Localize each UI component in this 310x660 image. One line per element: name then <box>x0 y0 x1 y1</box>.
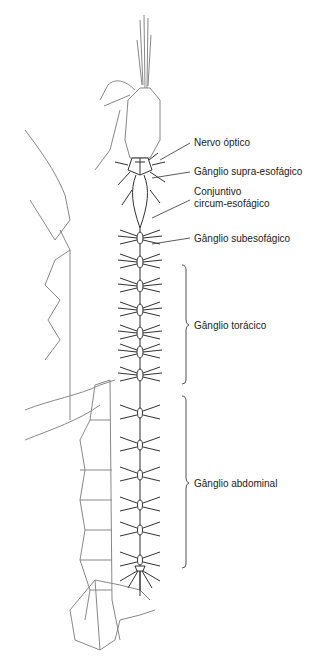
thoracic-bracket <box>182 265 189 384</box>
label-conjuntivo-line1: Conjuntivo <box>194 186 241 198</box>
label-conjuntivo-line2: circum-esofágico <box>194 198 270 210</box>
label-ganglio-abdominal: Gânglio abdominal <box>194 478 277 490</box>
label-ganglio-toracico: Gânglio torácico <box>194 320 266 332</box>
leader-lines <box>152 143 190 244</box>
abdominal-bracket <box>182 396 189 568</box>
label-ganglio-supra-esofagico: Gânglio supra-esofágico <box>194 166 302 178</box>
label-nervo-optico: Nervo óptico <box>194 137 250 149</box>
label-ganglio-subesofagico: Gânglio subesofágico <box>194 233 290 245</box>
brackets <box>182 265 189 568</box>
nerve-cord <box>115 153 165 596</box>
